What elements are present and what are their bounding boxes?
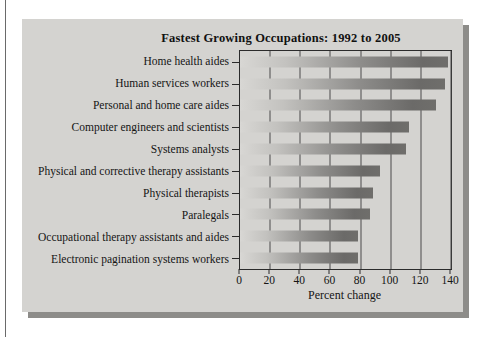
chart-bar [240, 56, 448, 67]
page-margin-line [5, 0, 6, 337]
x-axis-tick-label: 80 [354, 274, 366, 286]
bar-row [240, 95, 451, 117]
category-label: Physical therapists [22, 182, 239, 204]
chart-bar [240, 231, 358, 242]
category-label: Physical and corrective therapy assistan… [22, 160, 239, 182]
y-axis-tick [232, 214, 240, 215]
x-axis-label: Percent change [239, 288, 450, 303]
y-axis-tick [232, 258, 240, 259]
y-axis-tick [232, 105, 240, 106]
bar-row [240, 116, 451, 138]
plot-area [239, 50, 452, 270]
x-axis-tick-label: 40 [294, 274, 306, 286]
category-label: Human services workers [22, 72, 239, 94]
category-label: Home health aides [22, 50, 239, 72]
bar-row [240, 51, 451, 73]
x-axis-tick-label: 60 [324, 274, 336, 286]
bar-row [240, 160, 451, 182]
bar-row [240, 225, 451, 247]
category-label: Computer engineers and scientists [22, 116, 239, 138]
y-axis-tick [232, 84, 240, 85]
category-label: Systems analysts [22, 138, 239, 160]
chart-title: Fastest Growing Occupations: 1992 to 200… [161, 31, 401, 46]
y-axis-tick [232, 193, 240, 194]
chart-bar [240, 253, 358, 264]
bar-row [240, 138, 451, 160]
bar-row [240, 204, 451, 226]
x-axis-tick-label: 120 [411, 274, 428, 286]
x-axis-tick-label: 0 [236, 274, 242, 286]
x-axis-tick-label: 100 [381, 274, 398, 286]
x-axis-tick-labels: 020406080100120140 [239, 274, 450, 288]
category-label: Paralegals [22, 204, 239, 226]
chart-bar [240, 209, 370, 220]
chart-bar [240, 144, 406, 155]
chart-bar [240, 122, 409, 133]
x-axis-tick-label: 140 [441, 274, 458, 286]
y-axis-tick [232, 236, 240, 237]
chart-bar [240, 165, 380, 176]
bar-row [240, 182, 451, 204]
chart-bar [240, 100, 436, 111]
y-axis-tick [232, 149, 240, 150]
category-label: Electronic pagination systems workers [22, 248, 239, 270]
chart-bar [240, 78, 445, 89]
bar-rows [240, 51, 451, 269]
y-axis-tick [232, 62, 240, 63]
bar-row [240, 73, 451, 95]
category-label: Occupational therapy assistants and aide… [22, 226, 239, 248]
chart-panel: Fastest Growing Occupations: 1992 to 200… [22, 19, 463, 312]
bar-row [240, 247, 451, 269]
x-axis-tick-label: 20 [263, 274, 275, 286]
chart-bar [240, 187, 373, 198]
category-label: Personal and home care aides [22, 94, 239, 116]
y-axis-tick [232, 127, 240, 128]
category-axis-labels: Home health aidesHuman services workersP… [22, 50, 239, 270]
y-axis-tick [232, 171, 240, 172]
